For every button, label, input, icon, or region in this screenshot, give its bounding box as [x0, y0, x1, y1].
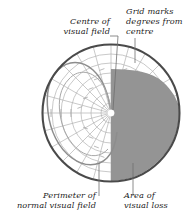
centre-fixation-dot: [108, 110, 114, 116]
label-centre-of-visual-field: Centre of visual field: [28, 16, 110, 36]
label-grid-marks-degrees: Grid marks degrees from centre: [126, 6, 192, 37]
label-area-of-visual-loss: Area of visual loss: [124, 190, 190, 210]
figure-canvas: Centre of visual field Grid marks degree…: [0, 0, 194, 222]
perimeter-of-normal-visual-field: [47, 63, 117, 165]
label-perimeter-of-normal-visual-field: Perimeter of normal visual field: [2, 190, 96, 210]
area-of-visual-loss: [111, 69, 180, 181]
